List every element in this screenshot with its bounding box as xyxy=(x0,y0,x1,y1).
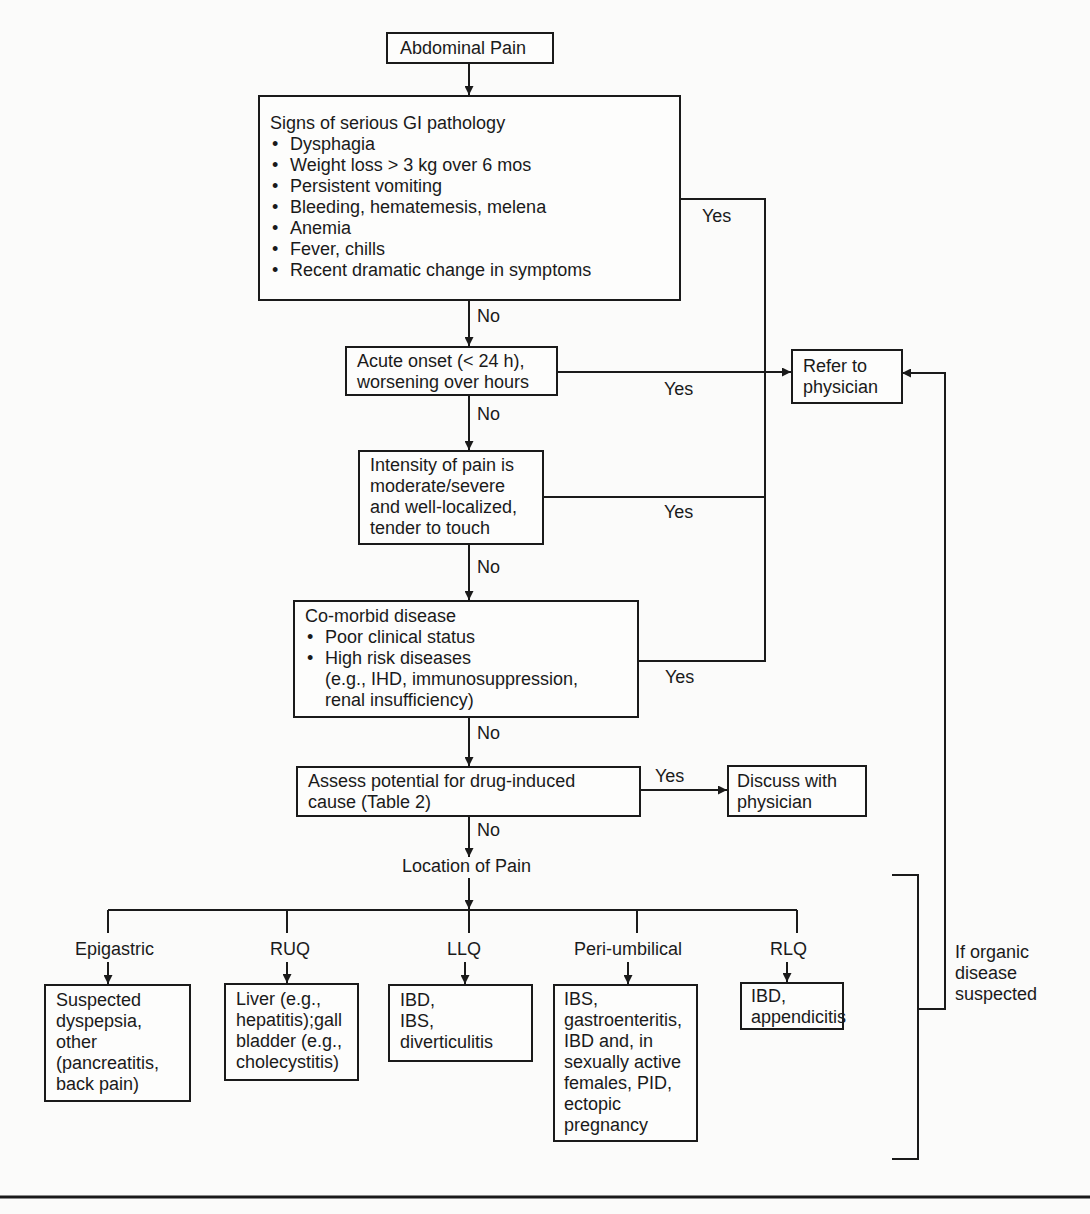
line: dyspepsia, xyxy=(56,1011,179,1032)
edge-label-yes: Yes xyxy=(702,206,731,227)
outcome-discuss-with-physician: Discuss with physician xyxy=(727,765,867,817)
edge-label-yes: Yes xyxy=(665,667,694,688)
location-of-pain-label: Location of Pain xyxy=(402,856,531,877)
line: suspected xyxy=(955,984,1037,1005)
decision-heading: Co-morbid disease xyxy=(305,606,627,627)
line: IBS, xyxy=(400,1011,521,1032)
decision-serious-gi-pathology: Signs of serious GI pathology Dysphagia … xyxy=(258,95,681,301)
node-label: Abdominal Pain xyxy=(400,38,526,58)
line: diverticulitis xyxy=(400,1032,521,1053)
line: Liver (e.g., xyxy=(236,989,347,1010)
comorbid-list: Poor clinical status High risk diseases xyxy=(305,627,627,669)
edge-label-yes: Yes xyxy=(664,379,693,400)
edge-label-no: No xyxy=(477,306,500,327)
decision-pain-intensity: Intensity of pain is moderate/severe and… xyxy=(358,450,544,545)
edge-label-no: No xyxy=(477,557,500,578)
decision-acute-onset: Acute onset (< 24 h), worsening over hou… xyxy=(345,346,558,396)
line: bladder (e.g., xyxy=(236,1031,347,1052)
branch-label-llq: LLQ xyxy=(447,939,481,960)
line: Refer to xyxy=(803,356,891,377)
branch-label-epigastric: Epigastric xyxy=(75,939,154,960)
edge-label-no: No xyxy=(477,820,500,841)
edge-label-yes: Yes xyxy=(664,502,693,523)
organic-disease-note: If organic disease suspected xyxy=(955,942,1037,1005)
list-item: Recent dramatic change in symptoms xyxy=(270,260,669,281)
line: gastroenteritis, xyxy=(564,1010,687,1031)
list-item: Persistent vomiting xyxy=(270,176,669,197)
line: (pancreatitis, xyxy=(56,1053,179,1074)
line: Intensity of pain is xyxy=(370,455,532,476)
line: females, PID, xyxy=(564,1073,687,1094)
line: other xyxy=(56,1032,179,1053)
line: IBD and, in xyxy=(564,1031,687,1052)
symptom-list: Dysphagia Weight loss > 3 kg over 6 mos … xyxy=(270,134,669,281)
list-item: Weight loss > 3 kg over 6 mos xyxy=(270,155,669,176)
line: physician xyxy=(737,792,857,813)
branch-label-rlq: RLQ xyxy=(770,939,807,960)
list-item: Poor clinical status xyxy=(305,627,627,648)
outcome-refer-to-physician: Refer to physician xyxy=(791,349,903,404)
list-item: Dysphagia xyxy=(270,134,669,155)
sub-note: renal insufficiency) xyxy=(305,690,627,711)
line: IBS, xyxy=(564,989,687,1010)
line: and well-localized, xyxy=(370,497,532,518)
line: Suspected xyxy=(56,990,179,1011)
edge-label-no: No xyxy=(477,404,500,425)
list-item: Bleeding, hematemesis, melena xyxy=(270,197,669,218)
outcome-epigastric: Suspected dyspepsia, other (pancreatitis… xyxy=(44,984,191,1102)
outcome-llq: IBD, IBS, diverticulitis xyxy=(388,984,533,1062)
line: cholecystitis) xyxy=(236,1052,347,1073)
line: moderate/severe xyxy=(370,476,532,497)
line: worsening over hours xyxy=(357,372,546,393)
list-item: Fever, chills xyxy=(270,239,669,260)
line: back pain) xyxy=(56,1074,179,1095)
line: tender to touch xyxy=(370,518,532,539)
line: appendicitis xyxy=(751,1007,833,1028)
line: sexually active xyxy=(564,1052,687,1073)
line: If organic xyxy=(955,942,1037,963)
line: cause (Table 2) xyxy=(308,792,629,813)
outcome-periumbilical: IBS, gastroenteritis, IBD and, in sexual… xyxy=(553,984,698,1142)
list-item: High risk diseases xyxy=(305,648,627,669)
line: disease xyxy=(955,963,1037,984)
line: ectopic xyxy=(564,1094,687,1115)
line: pregnancy xyxy=(564,1115,687,1136)
line: IBD, xyxy=(751,986,833,1007)
decision-drug-induced: Assess potential for drug-induced cause … xyxy=(296,766,641,817)
outcome-rlq: IBD, appendicitis xyxy=(740,982,844,1030)
start-node-abdominal-pain: Abdominal Pain xyxy=(386,32,554,64)
list-item: Anemia xyxy=(270,218,669,239)
outcome-ruq: Liver (e.g., hepatitis);gall bladder (e.… xyxy=(224,983,359,1081)
line: Acute onset (< 24 h), xyxy=(357,351,546,372)
edge-label-yes: Yes xyxy=(655,766,684,787)
edge-label-no: No xyxy=(477,723,500,744)
branch-label-periumbilical: Peri-umbilical xyxy=(574,939,682,960)
decision-heading: Signs of serious GI pathology xyxy=(270,113,669,134)
decision-comorbid-disease: Co-morbid disease Poor clinical status H… xyxy=(293,600,639,718)
line: hepatitis);gall xyxy=(236,1010,347,1031)
line: Assess potential for drug-induced xyxy=(308,771,629,792)
sub-note: (e.g., IHD, immunosuppression, xyxy=(305,669,627,690)
line: physician xyxy=(803,377,891,398)
line: Discuss with xyxy=(737,771,857,792)
branch-label-ruq: RUQ xyxy=(270,939,310,960)
line: IBD, xyxy=(400,990,521,1011)
